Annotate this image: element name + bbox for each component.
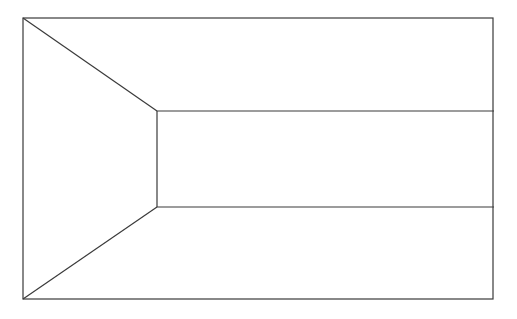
hoist-diagonal-bottom	[23, 207, 157, 299]
hoist-diagonal-top	[23, 18, 157, 111]
flag-border	[23, 18, 493, 299]
flag-outline-diagram	[0, 0, 517, 319]
